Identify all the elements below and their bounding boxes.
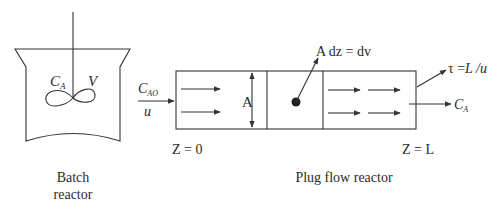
batch-reactor: CA V Batch reactor <box>15 12 130 202</box>
batch-caption-line2: reactor <box>54 187 93 202</box>
pfr-caption: Plug flow reactor <box>295 170 393 185</box>
batch-caption-line1: Batch <box>57 170 90 185</box>
residence-time-arrow-icon <box>417 70 446 87</box>
reactor-diagram: CA V Batch reactor CAO u A A dz = dv τ =… <box>0 0 502 206</box>
element-volume-label: A dz = dv <box>316 44 371 59</box>
batch-concentration-label: CA <box>50 73 66 91</box>
outlet-position-label: Z = L <box>402 142 434 157</box>
area-label: A <box>242 94 253 110</box>
batch-volume-label: V <box>88 73 99 89</box>
residence-time-label: τ =L /u <box>448 61 487 76</box>
inlet-position-label: Z = 0 <box>172 142 202 157</box>
inlet-velocity-label: u <box>144 104 151 119</box>
outlet-concentration-label: CA <box>454 97 468 114</box>
inlet-concentration-label: CAO <box>138 81 158 98</box>
plug-flow-reactor: CAO u A A dz = dv τ =L /u CA Z = 0 Z = L… <box>138 44 487 185</box>
impeller-icon <box>46 89 95 106</box>
element-pointer-arrow-icon <box>296 58 318 102</box>
